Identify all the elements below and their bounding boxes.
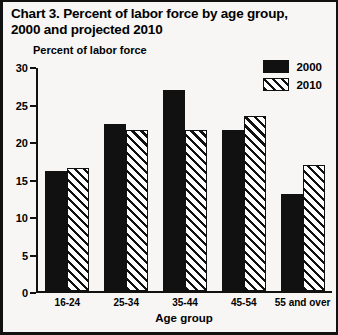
x-tick-label: 45-54 — [231, 297, 257, 308]
x-axis-line — [36, 291, 332, 293]
y-tick-label: 25 — [16, 100, 28, 112]
bar-2010-16-24 — [67, 168, 89, 291]
bar-group: 55 and over — [273, 68, 332, 291]
y-tick-mark — [30, 180, 36, 182]
y-tick-label: 0 — [22, 287, 28, 299]
y-tick-mark — [30, 105, 36, 107]
y-tick-label: 15 — [16, 175, 28, 187]
x-axis-title: Age group — [36, 312, 332, 324]
bar-group: 45-54 — [214, 68, 273, 291]
bar-group: 25-34 — [97, 68, 156, 291]
plot-area: 051015202530 16-2425-3435-4445-5455 and … — [36, 68, 332, 293]
chart-title-line-2: 2000 and projected 2010 — [11, 22, 333, 38]
chart-figure: Chart 3. Percent of labor force by age g… — [0, 0, 338, 335]
y-tick-label: 30 — [16, 62, 28, 74]
bar-2000-16-24 — [45, 171, 67, 291]
y-tick-mark — [30, 142, 36, 144]
bar-2000-25-34 — [104, 124, 126, 291]
y-tick-label: 20 — [16, 137, 28, 149]
bar-groups: 16-2425-3435-4445-5455 and over — [38, 68, 332, 291]
bar-2010-55-and-over — [303, 165, 325, 291]
bar-group: 16-24 — [38, 68, 97, 291]
y-tick-label: 5 — [22, 250, 28, 262]
bar-2010-25-34 — [126, 130, 148, 291]
y-tick-mark — [30, 255, 36, 257]
y-axis-unit-label: Percent of labor force — [33, 44, 147, 56]
chart-title: Chart 3. Percent of labor force by age g… — [11, 6, 333, 38]
bar-2000-35-44 — [163, 90, 185, 291]
x-tick-label: 55 and over — [275, 297, 331, 308]
x-tick-label: 16-24 — [55, 297, 81, 308]
bar-2010-35-44 — [185, 130, 207, 291]
bar-2000-55-and-over — [281, 194, 303, 291]
y-tick-mark — [30, 292, 36, 294]
x-tick-label: 25-34 — [113, 297, 139, 308]
y-tick-mark — [30, 67, 36, 69]
y-tick-mark — [30, 217, 36, 219]
x-tick-label: 35-44 — [172, 297, 198, 308]
chart-title-line-1: Chart 3. Percent of labor force by age g… — [11, 6, 333, 22]
bar-group: 35-44 — [156, 68, 215, 291]
bar-2010-45-54 — [244, 116, 266, 291]
bar-2000-45-54 — [222, 130, 244, 291]
y-tick-label: 10 — [16, 212, 28, 224]
